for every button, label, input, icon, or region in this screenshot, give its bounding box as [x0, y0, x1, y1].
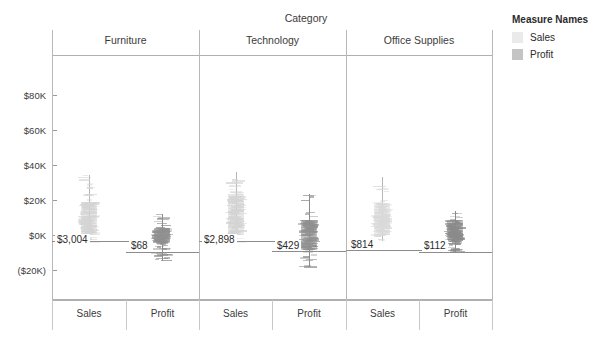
distribution-mark	[309, 196, 315, 197]
distribution-mark	[238, 182, 243, 183]
legend-label-profit: Profit	[530, 49, 553, 60]
distribution-mark	[79, 179, 90, 180]
iqr-box	[81, 202, 97, 235]
reference-line-technology-profit	[272, 251, 346, 252]
distribution-mark	[456, 213, 462, 214]
distribution-mark	[306, 259, 316, 260]
distribution-mark	[83, 175, 88, 176]
distribution-mark	[161, 260, 172, 261]
distribution-technology-profit	[295, 194, 323, 268]
distribution-mark	[449, 243, 459, 244]
distribution-mark	[455, 217, 463, 218]
distribution-mark	[157, 244, 165, 245]
distribution-mark	[87, 199, 93, 200]
distribution-mark	[229, 185, 241, 186]
distribution-mark	[306, 266, 317, 267]
distribution-mark	[157, 219, 168, 220]
distribution-mark	[309, 216, 318, 217]
distribution-mark	[84, 194, 97, 195]
distribution-mark	[156, 258, 167, 259]
distribution-technology-sales	[222, 172, 250, 243]
iqr-box	[154, 228, 170, 243]
distribution-mark	[383, 188, 390, 189]
legend-title: Measure Names	[512, 14, 608, 25]
reference-line-office-profit	[419, 252, 492, 253]
value-label-furniture-profit: $68	[129, 240, 150, 251]
distribution-mark	[154, 221, 163, 222]
distribution-mark	[311, 254, 317, 255]
distribution-mark	[156, 214, 164, 215]
distribution-mark	[226, 182, 238, 183]
distribution-mark	[153, 248, 162, 249]
distribution-office-supplies-sales	[368, 177, 396, 240]
legend-swatch-profit	[512, 49, 523, 60]
distribution-mark	[157, 223, 167, 224]
distribution-mark	[381, 200, 388, 201]
distribution-mark	[305, 213, 310, 214]
value-label-technology-profit: $429	[275, 240, 301, 251]
iqr-box	[301, 220, 317, 250]
distribution-mark	[378, 239, 384, 240]
legend-swatch-sales	[512, 32, 523, 43]
distribution-mark	[304, 267, 317, 268]
iqr-box	[228, 194, 244, 235]
distribution-mark	[157, 254, 168, 255]
distribution-mark	[230, 192, 241, 193]
distribution-chart: Category Furniture Technology Office Sup…	[0, 0, 612, 339]
distribution-mark	[87, 183, 93, 184]
distribution-mark	[232, 180, 245, 181]
value-label-office-profit: $112	[422, 240, 448, 251]
distribution-mark	[451, 248, 460, 249]
distribution-mark	[232, 179, 238, 180]
distribution-furniture-profit	[148, 214, 176, 261]
legend-item-sales[interactable]: Sales	[512, 30, 608, 45]
reference-line-office-sales	[346, 250, 434, 251]
value-label-office-sales: $814	[349, 239, 375, 250]
iqr-box	[447, 220, 463, 241]
distribution-mark	[384, 191, 389, 192]
legend-label-sales: Sales	[530, 32, 555, 43]
distribution-mark	[153, 216, 161, 217]
distribution-mark	[376, 236, 381, 237]
legend: Measure Names Sales Profit	[512, 14, 608, 64]
legend-item-profit[interactable]: Profit	[512, 47, 608, 62]
distribution-mark	[373, 186, 386, 187]
iqr-box	[374, 203, 390, 235]
value-label-furniture-sales: $3,004	[55, 234, 90, 245]
distribution-mark	[301, 200, 309, 201]
value-label-technology-sales: $2,898	[202, 234, 237, 245]
distribution-mark	[87, 187, 92, 188]
distribution-mark	[78, 177, 91, 178]
reference-line-furniture-profit	[126, 252, 199, 253]
distribution-mark	[161, 225, 172, 226]
